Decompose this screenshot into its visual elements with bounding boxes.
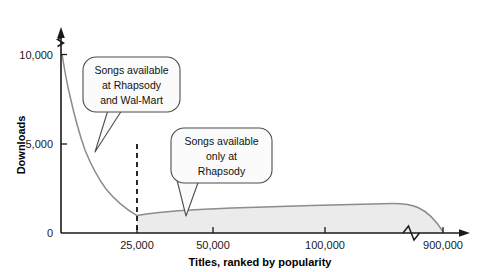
callout-two-line3: Rhapsody xyxy=(198,165,246,177)
long-tail-chart: 10,000 5,000 0 25,000 50,000 100,000 900… xyxy=(0,0,478,272)
x-axis-arrowhead xyxy=(459,229,470,237)
y-axis-title: Downloads xyxy=(15,116,27,175)
y-tick-label-10000: 10,000 xyxy=(19,49,53,61)
shaded-region-rhapsody-only xyxy=(137,204,443,234)
x-tick-label-25000: 25,000 xyxy=(120,239,154,251)
callout-two-line1: Songs available xyxy=(184,135,258,147)
y-tick-label-0: 0 xyxy=(47,227,53,239)
callout-two-line2: only at xyxy=(206,150,237,162)
x-tick-label-50000: 50,000 xyxy=(196,239,230,251)
x-tick-label-100000: 100,000 xyxy=(305,239,345,251)
callout-one-line3: and Wal-Mart xyxy=(100,94,163,106)
callout-one-tail xyxy=(95,110,122,152)
x-axis-title: Titles, ranked by popularity xyxy=(189,256,333,268)
chart-screenshot: 10,000 5,000 0 25,000 50,000 100,000 900… xyxy=(0,0,478,272)
callout-one-line2: at Rhapsody xyxy=(102,79,162,91)
y-tick-label-5000: 5,000 xyxy=(25,138,53,150)
callout-one-line1: Songs available xyxy=(94,64,168,76)
x-tick-label-900000: 900,000 xyxy=(423,239,463,251)
